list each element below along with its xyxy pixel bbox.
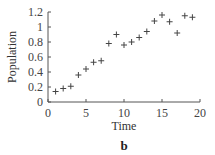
data-points — [53, 12, 196, 95]
y-axis-label: Population — [5, 31, 19, 83]
x-axis-label: Time — [112, 119, 137, 133]
y-tick-label: 0.8 — [28, 35, 43, 49]
plus-marker — [129, 39, 135, 45]
plus-marker — [113, 32, 119, 38]
plus-marker — [53, 89, 59, 95]
plus-marker — [106, 41, 112, 47]
y-tick-label: 1.2 — [28, 5, 43, 19]
plus-marker — [144, 29, 150, 35]
plus-marker — [91, 59, 97, 65]
x-tick-label: 0 — [45, 106, 51, 120]
plus-marker — [167, 19, 173, 25]
y-tick-label: 0.2 — [28, 80, 43, 94]
plus-marker — [75, 72, 81, 78]
y-tick-label: 0.4 — [28, 65, 43, 79]
plus-marker — [189, 14, 195, 20]
plus-marker — [182, 13, 188, 19]
plus-marker — [60, 86, 66, 92]
axes: 0510152000.20.40.60.811.2 — [28, 5, 206, 120]
y-tick-label: 0.6 — [28, 50, 43, 64]
plus-marker — [98, 58, 104, 64]
plus-marker — [83, 66, 89, 72]
plus-marker — [121, 42, 127, 48]
y-tick-label: 0 — [37, 95, 43, 109]
plus-marker — [68, 83, 74, 89]
plus-marker — [151, 18, 157, 24]
x-tick-label: 20 — [194, 106, 206, 120]
panel-label: b — [120, 138, 127, 153]
plus-marker — [174, 30, 180, 36]
scatter-chart: 0510152000.20.40.60.811.2 Time Populatio… — [0, 0, 215, 155]
y-tick-label: 1 — [37, 20, 43, 34]
x-tick-label: 10 — [118, 106, 130, 120]
x-tick-label: 15 — [156, 106, 168, 120]
plus-marker — [136, 35, 142, 41]
x-tick-label: 5 — [83, 106, 89, 120]
plus-marker — [159, 12, 165, 18]
